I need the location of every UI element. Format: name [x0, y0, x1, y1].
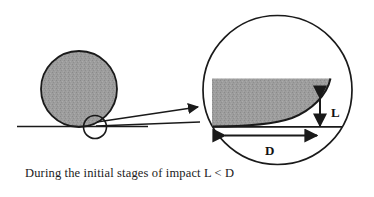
- left-view-group: [17, 51, 200, 139]
- figure-caption: During the initial stages of impact L < …: [25, 166, 234, 181]
- impact-diagram-figure: L D During the initial stages of impact …: [0, 0, 374, 197]
- dimension-label-D: D: [265, 143, 274, 158]
- dimension-label-L: L: [331, 105, 340, 120]
- magnified-view-group: L D: [203, 16, 352, 165]
- callout-leader-lower: [96, 122, 200, 126]
- impacting-ball: [41, 51, 117, 127]
